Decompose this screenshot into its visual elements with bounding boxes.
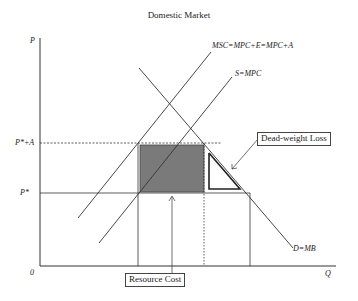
demand-label: D=MB — [293, 245, 316, 253]
x-axis-label: Q — [325, 270, 331, 278]
price-low-label: P* — [20, 189, 29, 197]
price-high-label: P*+A — [15, 139, 34, 147]
deadweight-arrow — [232, 139, 258, 169]
resource-cost-callout: Resource Cost — [125, 273, 185, 287]
market-diagram — [0, 0, 358, 301]
deadweight-triangle — [209, 153, 240, 189]
supply-label: S=MPC — [235, 70, 261, 78]
deadweight-loss-callout: Dead-weight Loss — [257, 132, 331, 146]
msc-label: MSC=MPC+E=MPC+A — [212, 42, 293, 50]
supply-curve — [99, 77, 232, 243]
origin-label: 0 — [30, 269, 34, 277]
y-axis-label: P — [30, 37, 35, 45]
